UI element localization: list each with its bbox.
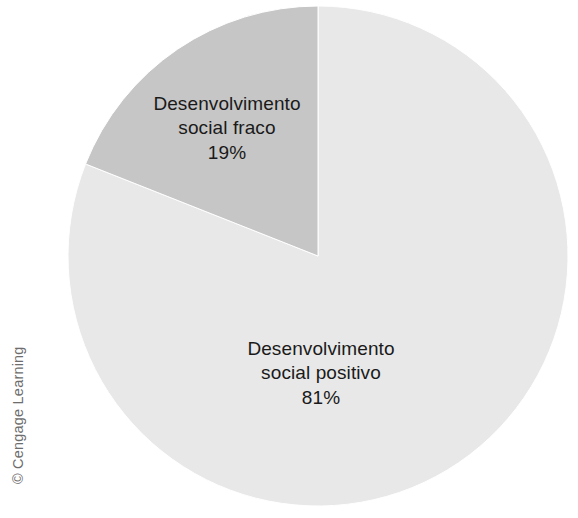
pie-label-fraco-line2: social fraco (178, 117, 275, 138)
pie-label-fraco-percent: 19% (120, 141, 334, 165)
pie-label-positivo-percent: 81% (214, 386, 428, 410)
pie-chart-figure: Desenvolvimento social fraco 19% Desenvo… (0, 0, 578, 518)
pie-label-desenvolvimento-social-positivo: Desenvolvimento social positivo 81% (214, 337, 428, 410)
pie-label-fraco-line1: Desenvolvimento (153, 93, 300, 114)
copyright-credit: © Cengage Learning (10, 324, 26, 484)
pie-label-desenvolvimento-social-fraco: Desenvolvimento social fraco 19% (120, 92, 334, 165)
pie-chart-svg (0, 0, 578, 518)
pie-slices (68, 6, 568, 506)
pie-label-positivo-line1: Desenvolvimento (247, 338, 394, 359)
pie-label-positivo-line2: social positivo (261, 362, 381, 383)
